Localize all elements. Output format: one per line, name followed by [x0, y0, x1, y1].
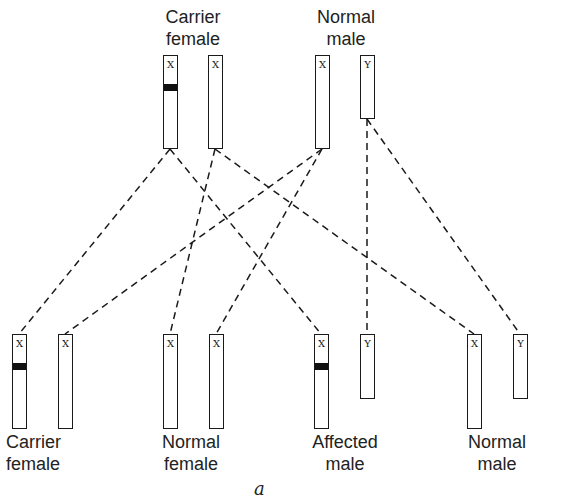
parent-father-x: X — [315, 55, 330, 149]
chromosome-type: X — [164, 59, 177, 71]
offspring-carrier-female-x-normal: X — [58, 334, 73, 429]
chromosome-type: Y — [361, 59, 374, 71]
chromosome-type: Y — [361, 338, 374, 350]
label-line1: Affected — [300, 431, 390, 453]
link-mother-x1-to-carrier-female — [19, 149, 170, 334]
offspring-normal-male-x: X — [467, 334, 482, 429]
parent-mother-x-mutant: X — [163, 55, 178, 149]
mutant-band — [164, 84, 177, 91]
label-line2: male — [456, 453, 538, 475]
label-line2: female — [150, 453, 232, 475]
chromosome-type: X — [59, 338, 72, 350]
chromosome-type: X — [316, 59, 329, 71]
offspring-normal-female-x2: X — [209, 334, 224, 429]
label-line1: Normal — [150, 431, 232, 453]
offspring-label-normal-female: Normal female — [150, 431, 232, 475]
label-line1: Carrier — [6, 431, 61, 453]
label-line1: Carrier — [152, 6, 234, 28]
offspring-carrier-female-x-mutant: X — [12, 334, 27, 429]
link-father-y-to-normal-male — [367, 119, 520, 334]
link-father-x-to-normal-female — [216, 149, 322, 334]
offspring-affected-male-x-mutant: X — [314, 334, 329, 429]
mutant-band — [13, 363, 26, 370]
offspring-label-normal-male: Normal male — [456, 431, 538, 475]
chromosome-type: X — [468, 338, 481, 350]
inheritance-diagram: Carrier female Normal male X X X Y X X X… — [0, 0, 566, 497]
chromosome-type: Y — [514, 338, 527, 350]
parent-mother-x-normal: X — [208, 55, 223, 149]
chromosome-type: X — [164, 338, 177, 350]
offspring-affected-male-y: Y — [360, 334, 375, 399]
label-line1: Normal — [456, 431, 538, 453]
label-line2: female — [152, 28, 234, 50]
chromosome-type: X — [315, 338, 328, 350]
parent-label-normal-male: Normal male — [305, 6, 387, 50]
offspring-normal-male-y: Y — [513, 334, 528, 399]
label-line2: female — [6, 453, 61, 475]
label-line1: Normal — [305, 6, 387, 28]
chromosome-type: X — [13, 338, 26, 350]
offspring-normal-female-x1: X — [163, 334, 178, 429]
parent-label-carrier-female: Carrier female — [152, 6, 234, 50]
chromosome-type: X — [210, 338, 223, 350]
label-line2: male — [300, 453, 390, 475]
offspring-label-affected-male: Affected male — [300, 431, 390, 475]
mutant-band — [315, 363, 328, 370]
offspring-label-carrier-female: Carrier female — [6, 431, 61, 475]
link-mother-x2-to-normal-male — [215, 149, 474, 334]
chromosome-type: X — [209, 59, 222, 71]
parent-father-y: Y — [360, 55, 375, 119]
label-line2: male — [305, 28, 387, 50]
figure-caption: a — [254, 478, 265, 497]
